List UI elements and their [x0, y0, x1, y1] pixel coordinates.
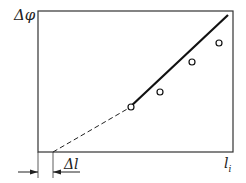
data-point [157, 89, 163, 95]
data-point [128, 104, 134, 110]
fit-line [129, 15, 228, 108]
extrapolation-dashed-line [53, 108, 129, 152]
arrow-right-icon [30, 170, 38, 175]
arrow-left-icon [53, 170, 61, 175]
x-axis-label: li [224, 156, 231, 174]
data-point [189, 59, 195, 65]
diagram-canvas [0, 0, 246, 183]
offset-label: Δl [64, 157, 79, 171]
plot-frame [38, 11, 233, 152]
y-axis-label: Δφ [14, 8, 35, 23]
data-points [128, 40, 222, 110]
x-axis-label-subscript: i [228, 164, 231, 174]
data-point [216, 40, 222, 46]
